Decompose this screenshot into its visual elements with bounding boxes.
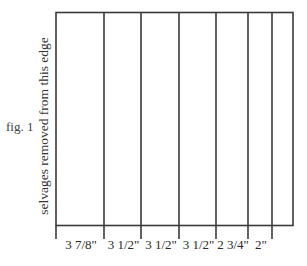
cut-lines [56, 13, 272, 240]
width-labels: 3 7/8"3 1/2"3 1/2"3 1/2"2 3/4"2" [65, 237, 267, 252]
strip-width-label: 3 1/2" [183, 237, 215, 252]
strip-width-label: 2 3/4" [217, 237, 249, 252]
cutting-diagram: 3 7/8"3 1/2"3 1/2"3 1/2"2 3/4"2" [0, 0, 307, 266]
strip-width-label: 3 1/2" [145, 237, 177, 252]
strip-width-label: 3 7/8" [65, 237, 97, 252]
strip-width-label: 2" [255, 237, 267, 252]
fabric-outline [56, 13, 293, 226]
strip-width-label: 3 1/2" [108, 237, 140, 252]
